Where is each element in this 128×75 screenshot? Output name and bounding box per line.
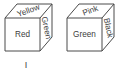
- cube-two-front-label: Green: [73, 30, 96, 39]
- cube-two: Green Pink Black II: [62, 0, 128, 75]
- cube-two-drawing: Green Pink Black: [62, 0, 128, 75]
- cube-two-numeral: II: [124, 60, 128, 70]
- cube-one-front-label: Red: [15, 30, 30, 39]
- cube-one: Red Yellow Green I: [0, 0, 64, 75]
- cube-figure: Red Yellow Green I Green Pink Black II: [0, 0, 128, 75]
- cube-one-numeral: I: [0, 60, 52, 70]
